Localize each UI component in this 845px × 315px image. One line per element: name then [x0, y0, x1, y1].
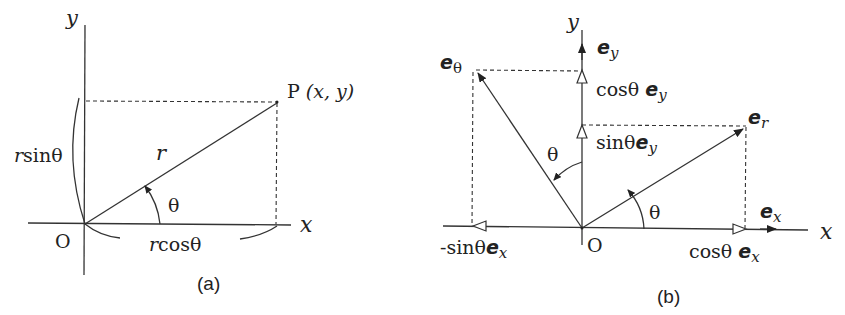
caption-a: (a): [197, 274, 220, 293]
point-p-label: P (x, y): [287, 82, 354, 101]
origin-label-a: O: [55, 232, 71, 251]
dashed-h-e-theta: [476, 70, 582, 71]
r-sin-prefix: r: [14, 144, 23, 166]
e-x-subscript: x: [773, 208, 781, 226]
angle-arc-b-er: [628, 190, 644, 229]
r-cos-brace-arc: [240, 226, 277, 239]
cos-theta-text: cosθ: [596, 78, 639, 100]
sin-theta-text: sinθ: [596, 131, 636, 153]
e-r-base: e: [748, 106, 761, 128]
r-sin-suffix: sinθ: [23, 144, 63, 166]
radius-vector-r: [85, 103, 277, 224]
cos-theta-ex-subscript: x: [751, 248, 759, 266]
sin-theta-ey-subscript: y: [648, 139, 656, 157]
e-theta-subscript: θ: [453, 59, 462, 77]
e-y-subscript: y: [610, 44, 618, 62]
cos-theta-ey-base: e: [645, 78, 658, 100]
neg-sin-theta-ex-subscript: x: [499, 244, 507, 262]
cos-theta-ex-label: cosθ ex: [689, 242, 760, 261]
x-axis-label-b: x: [820, 221, 832, 243]
e-x-base: e: [760, 200, 773, 222]
r-cos-suffix: cosθ: [158, 233, 201, 255]
neg-sin-theta-text: -sinθ: [440, 236, 486, 258]
e-x-label: ex: [760, 202, 781, 221]
e-r-label: er: [748, 108, 768, 127]
y-axis-a: [84, 25, 85, 275]
neg-sin-theta-ex-hollow-arrow: [473, 221, 486, 231]
cos-theta-ey-hollow-arrow: [577, 70, 587, 83]
origin-dot-b: [581, 227, 584, 230]
dashed-vertical-a: [276, 103, 277, 224]
r-cos-prefix: r: [149, 233, 158, 255]
dashed-h-e-r: [582, 125, 746, 126]
diagram-canvas: [0, 0, 845, 315]
neg-sin-theta-ex-base: e: [486, 236, 499, 258]
e-y-base: e: [597, 36, 610, 58]
neg-sin-theta-ex-label: -sinθex: [440, 238, 507, 257]
angle-arc-a: [145, 186, 160, 224]
cos-theta-ey-subscript: y: [658, 86, 666, 104]
sin-theta-ey-base: e: [636, 131, 649, 153]
e-y-label: ey: [597, 38, 618, 57]
angle-arc-b-etheta: [554, 162, 582, 180]
x-axis-b: [443, 226, 808, 230]
angle-label-b-etheta: θ: [547, 145, 558, 164]
cos-theta-ex-text: cosθ: [689, 240, 732, 262]
point-p-name: P: [287, 80, 300, 102]
angle-label-b-er: θ: [649, 203, 660, 222]
r-cos-theta-label: rcosθ: [149, 235, 201, 254]
y-axis-label-a: y: [66, 8, 78, 29]
e-theta-base: e: [440, 51, 453, 73]
y-axis-label-b: y: [567, 12, 579, 33]
caption-b: (b): [657, 287, 680, 306]
angle-label-a: θ: [168, 196, 179, 215]
e-theta-label: eθ: [440, 53, 462, 72]
point-p-coords: (x, y): [306, 80, 354, 102]
dashed-horizontal-a: [86, 101, 277, 102]
x-axis-label-a: x: [300, 214, 312, 236]
cos-theta-ex-hollow-arrow: [733, 224, 746, 234]
e-r-subscript: r: [761, 114, 768, 132]
sin-theta-ey-hollow-arrow: [577, 125, 587, 138]
e-theta-vector: [478, 73, 582, 228]
dashed-v-e-theta: [472, 72, 473, 226]
point-p-dot: [276, 101, 279, 104]
cos-theta-ex-base: e: [738, 240, 751, 262]
origin-label-b: O: [587, 236, 603, 255]
r-sin-theta-label: rsinθ: [14, 146, 63, 165]
radius-label-r: r: [156, 143, 166, 164]
sin-theta-ey-label: sinθey: [596, 133, 657, 152]
dashed-v-e-r: [745, 127, 746, 228]
cos-theta-ey-label: cosθ ey: [596, 80, 667, 99]
